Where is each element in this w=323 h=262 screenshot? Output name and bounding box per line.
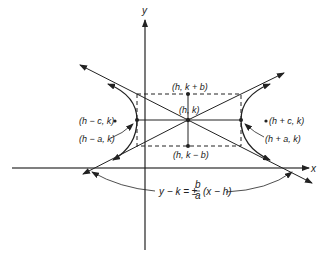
label-left-focus: (h − c, k) — [79, 116, 114, 126]
x-axis-label: x — [310, 163, 317, 174]
label-right-focus: (h + c, k) — [269, 116, 304, 126]
hyperbola-diagram: x y (h, k + b) (h, k) (h, k − b) (h − c,… — [0, 0, 323, 262]
right-branch-upper — [241, 84, 270, 120]
top-point — [186, 92, 190, 96]
leader-right-vertex — [245, 124, 264, 137]
label-bottom: (h, k − b) — [173, 150, 209, 160]
label-center: (h, k) — [179, 105, 200, 115]
left-branch-lower — [113, 120, 137, 160]
equation-pointer-right — [226, 172, 292, 192]
equation-rhs: (x − h) — [203, 186, 232, 197]
left-vertex-point — [135, 118, 139, 122]
equation-lhs: y − k = ± — [158, 186, 198, 197]
asymptote-positive-slope-lower — [83, 120, 188, 174]
asymptote-positive-slope — [188, 73, 284, 120]
bottom-point — [186, 144, 190, 148]
label-right-vertex: (h + a, k) — [265, 134, 301, 144]
right-focus-point — [264, 119, 267, 122]
label-left-vertex: (h − a, k) — [79, 134, 115, 144]
label-top: (h, k + b) — [172, 82, 208, 92]
right-vertex-point — [239, 118, 243, 122]
asymptote-equation: y − k = ± b a (x − h) — [158, 179, 232, 201]
left-branch-upper — [108, 84, 137, 120]
center-point — [186, 118, 190, 122]
asymptote-negative-slope — [80, 65, 188, 120]
y-axis-label: y — [141, 5, 148, 16]
equation-fraction-numerator: b — [195, 179, 201, 190]
equation-fraction-denominator: a — [195, 190, 201, 201]
